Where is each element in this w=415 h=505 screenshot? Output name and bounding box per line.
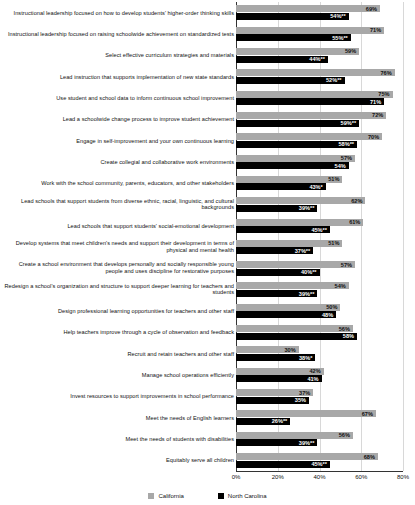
category-label: Lead schools that support students from … [2,198,234,211]
bar-north-carolina: 35% [236,397,309,404]
bar-value-label: 42% [309,368,320,374]
x-axis-ticks: 0%20%40%60%80% [236,474,403,488]
chart-row: Redesign a school's organization and str… [0,279,415,300]
category-label: Recruit and retain teachers and other st… [2,350,234,357]
bar-north-carolina: 54%** [236,13,349,20]
x-axis-tick-label: 80% [397,474,409,480]
bar-california: 57% [236,155,355,162]
bar-north-carolina: 44%** [236,56,328,63]
bar-california: 70% [236,133,382,140]
bar-california: 56% [236,432,353,439]
chart-row: Recruit and retain teachers and other st… [0,343,415,364]
category-label: Meet the needs of English learners [2,414,234,421]
bar-california: 51% [236,240,342,247]
bar-value-label: 50% [326,304,337,310]
bar-north-carolina: 45%** [236,461,330,468]
bar-value-label: 39%** [299,205,315,211]
chart-row: Equitably serve all children68%45%** [0,450,415,471]
bar-value-label: 61% [349,219,360,225]
bar-value-label: 48% [322,312,333,318]
bar-group: 42%41% [236,364,405,385]
bar-group: 61%45%** [236,215,405,236]
bar-group: 69%54%** [236,2,405,23]
chart-row: Engage in self-improvement and your own … [0,130,415,151]
bar-value-label: 39%** [299,440,315,446]
chart-row: Lead a schoolwide change process to impr… [0,109,415,130]
category-label: Instructional leadership focused on how … [2,9,234,16]
bar-value-label: 57% [341,262,352,268]
bar-north-carolina: 39%** [236,439,317,446]
bar-group: 30%38%* [236,343,405,364]
bar-california: 54% [236,282,349,289]
bar-north-carolina: 58%** [236,141,357,148]
bar-value-label: 67% [362,411,373,417]
chart-row: Select effective curriculum strategies a… [0,45,415,66]
bar-group: 68%45%** [236,450,405,471]
legend-item[interactable]: North Carolina [218,493,267,499]
bar-north-carolina: 40%** [236,269,320,276]
x-axis-tick-label: 20% [272,474,284,480]
category-label: Lead schools that support students' soci… [2,223,234,230]
chart-row: Meet the needs of students with disabili… [0,428,415,449]
bar-california: 37% [236,389,313,396]
bar-value-label: 30% [284,347,295,353]
bar-california: 50% [236,304,340,311]
legend-swatch-icon [148,493,154,499]
bar-north-carolina: 45%** [236,226,330,233]
bar-group: 75%71% [236,87,405,108]
chart-row: Create collegial and collaborative work … [0,151,415,172]
bar-north-carolina: 58% [236,333,357,340]
category-label: Select effective curriculum strategies a… [2,52,234,59]
chart-row: Work with the school community, parents,… [0,173,415,194]
chart-row: Help teachers improve through a cycle of… [0,322,415,343]
category-label: Develop systems that meet children's nee… [2,241,234,254]
bar-california: 61% [236,219,363,226]
bar-california: 56% [236,325,353,332]
bar-north-carolina: 55%** [236,34,351,41]
chart-row: Manage school operations efficiently42%4… [0,364,415,385]
bar-value-label: 43%* [309,184,322,190]
bar-value-label: 39%** [299,291,315,297]
chart-row: Create a school environment that develop… [0,258,415,279]
chart-row: Instructional leadership focused on how … [0,2,415,23]
bar-value-label: 44%** [309,56,325,62]
bar-group: 37%35% [236,386,405,407]
chart-legend: CaliforniaNorth Carolina [0,488,415,504]
bar-value-label: 51% [328,176,339,182]
chart-row: Instructional leadership focused on rais… [0,23,415,44]
bar-california: 68% [236,453,378,460]
category-label: Meet the needs of students with disabili… [2,436,234,443]
category-label: Engage in self-improvement and your own … [2,137,234,144]
bar-north-carolina: 71% [236,98,384,105]
bar-value-label: 54% [335,283,346,289]
bar-group: 56%58% [236,322,405,343]
x-axis-tick-label: 0% [232,474,241,480]
legend-item[interactable]: California [148,493,183,499]
bar-california: 42% [236,368,324,375]
bar-group: 51%37%** [236,237,405,258]
bar-value-label: 76% [380,70,391,76]
bar-value-label: 40%** [301,269,317,275]
chart-row: Develop systems that meet children's nee… [0,237,415,258]
bar-group: 62%39%** [236,194,405,215]
bar-california: 76% [236,69,395,76]
bar-group: 76%52%** [236,66,405,87]
bar-group: 71%55%** [236,23,405,44]
bar-value-label: 26%** [272,418,288,424]
chart-row: Lead instruction that supports implement… [0,66,415,87]
bar-california: 67% [236,410,376,417]
bar-north-carolina: 54% [236,162,349,169]
bar-california: 71% [236,27,384,34]
bar-value-label: 75% [378,91,389,97]
bar-value-label: 52%** [326,77,342,83]
bar-value-label: 41% [307,376,318,382]
bar-california: 72% [236,112,386,119]
bar-california: 62% [236,197,365,204]
category-label: Invest resources to support improvements… [2,393,234,400]
bar-value-label: 71% [370,27,381,33]
bar-north-carolina: 48% [236,311,336,318]
bar-value-label: 58% [343,333,354,339]
bar-group: 57%40%** [236,258,405,279]
bar-group: 67%26%** [236,407,405,428]
category-label: Use student and school data to inform co… [2,95,234,102]
